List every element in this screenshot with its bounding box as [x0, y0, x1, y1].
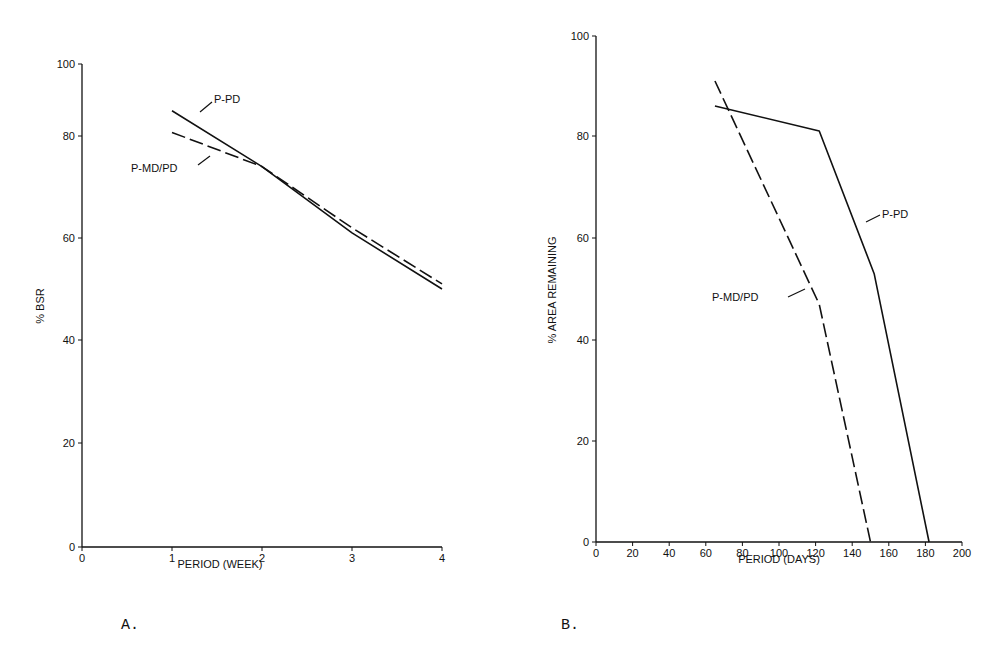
y-tick-label: 40 [577, 334, 589, 346]
series-label-p-md-pd: P-MD/PD [131, 162, 178, 174]
leader-line [198, 156, 210, 165]
chart-a-annotations: P-PD P-MD/PD [131, 93, 240, 174]
x-tick-label: 4 [439, 552, 445, 564]
x-tick-label: 0 [593, 547, 599, 559]
leader-line [200, 102, 212, 112]
panel-label-a: A. [121, 617, 139, 634]
chart-b-annotations: P-PD P-MD/PD [712, 208, 908, 303]
y-tick-label: 20 [577, 435, 589, 447]
leader-line [866, 215, 880, 222]
series-label-p-pd: P-PD [214, 93, 240, 105]
x-tick-label: 160 [880, 547, 898, 559]
chart-a-y-axis-title: % BSR [34, 288, 46, 324]
chart-a: 01234020406080100 [57, 58, 445, 564]
y-tick-label: 100 [57, 58, 75, 70]
y-tick-label: 80 [63, 130, 75, 142]
x-tick-label: 200 [953, 547, 971, 559]
figure-canvas: 01234020406080100 0204060801001201401601… [0, 0, 1000, 670]
y-tick-label: 0 [583, 536, 589, 548]
x-tick-label: 40 [663, 547, 675, 559]
y-tick-label: 60 [63, 232, 75, 244]
series-label-p-md-pd: P-MD/PD [712, 291, 759, 303]
chart-a-x-axis-title: PERIOD (WEEK) [178, 558, 263, 570]
y-tick-label: 60 [577, 232, 589, 244]
y-tick-label: 40 [63, 334, 75, 346]
y-tick-label: 0 [69, 541, 75, 553]
x-tick-label: 60 [700, 547, 712, 559]
x-tick-label: 1 [169, 552, 175, 564]
leader-line [788, 289, 805, 297]
chart-b-x-axis-title: PERIOD (DAYS) [738, 553, 820, 565]
x-tick-label: 180 [916, 547, 934, 559]
y-tick-label: 20 [63, 437, 75, 449]
chart-b: 020406080100120140160180200020406080100 [571, 30, 972, 559]
x-tick-label: 3 [349, 552, 355, 564]
y-tick-label: 100 [571, 30, 589, 42]
panel-label-b: B. [561, 617, 579, 634]
series-line-p-md-pd [172, 132, 442, 284]
x-tick-label: 20 [626, 547, 638, 559]
x-tick-label: 0 [79, 552, 85, 564]
series-line-p-md-pd [715, 81, 871, 542]
series-line-p-pd [715, 106, 929, 542]
series-label-p-pd: P-PD [882, 208, 908, 220]
y-tick-label: 80 [577, 130, 589, 142]
series-line-p-pd [172, 111, 442, 289]
chart-b-y-axis-title: % AREA REMAINING [546, 237, 558, 344]
x-tick-label: 140 [843, 547, 861, 559]
